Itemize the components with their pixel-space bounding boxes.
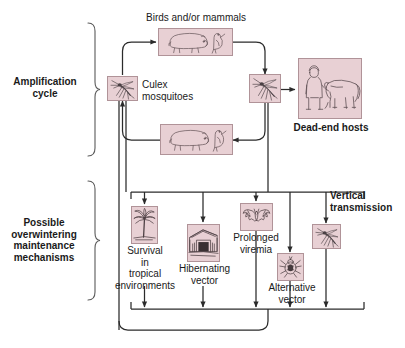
label-dead-end-hosts: Dead-end hosts (291, 122, 371, 134)
label-alternative-vector: Alternative vector (265, 282, 319, 305)
barn-shed-icon (188, 225, 219, 261)
mosquito-icon (108, 77, 137, 100)
mosquito-icon (313, 225, 340, 248)
image-vector-mosquito (249, 74, 281, 103)
label-culex-mosquitoes: Culex mosquitoes (142, 79, 204, 102)
label-vertical-transmission: Vertical transmission (330, 190, 404, 213)
image-birds-and-mammals-bottom (160, 124, 233, 155)
image-birds-and-mammals-top (158, 28, 233, 56)
label-birds-and-mammals-top: Birds and/or mammals (136, 12, 256, 24)
bracket-overwintering (88, 181, 100, 300)
image-prolonged-viremia (240, 203, 273, 231)
image-dead-end-hosts (298, 58, 362, 119)
label-prolonged-viremia: Prolonged viremia (228, 232, 284, 255)
image-vertical-transmission (312, 224, 341, 249)
image-tropical-survival (131, 206, 158, 244)
bracket-amplification (88, 23, 100, 156)
palm-tree-icon (132, 207, 157, 243)
bat-icon (241, 204, 272, 230)
person-and-horse-icon (299, 59, 361, 118)
tick-icon (278, 254, 303, 280)
section-label-overwintering: Possible overwintering maintenance mecha… (2, 217, 86, 263)
image-culex-mosquito (107, 76, 138, 101)
label-tropical-survival: Survival in tropical environments (113, 245, 177, 291)
mosquito-icon (250, 75, 280, 102)
pig-and-heron-icon (159, 29, 232, 55)
section-label-amplification: Amplification cycle (6, 76, 84, 99)
diagram-canvas: Amplification cycle Possible overwinteri… (0, 0, 405, 348)
image-hibernating-vector (187, 224, 220, 262)
label-hibernating-vector: Hibernating vector (176, 263, 233, 286)
pig-and-heron-icon (161, 125, 232, 154)
image-alternative-vector (277, 253, 304, 281)
